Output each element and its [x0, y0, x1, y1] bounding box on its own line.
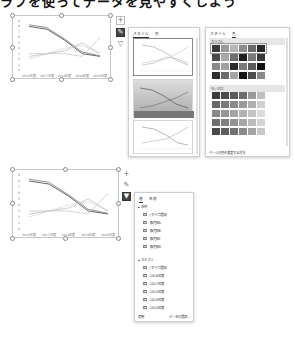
- filter-checkbox-item[interactable]: ✓2019年度: [143, 297, 164, 302]
- filter-checkbox-item[interactable]: ✓販売額C: [143, 236, 161, 241]
- color-swatch: [248, 128, 256, 135]
- checkbox[interactable]: ✓: [143, 229, 147, 233]
- resize-handle-tl[interactable]: [10, 167, 15, 172]
- select-data-link[interactable]: データの選択...: [169, 314, 190, 319]
- chart-styles-button[interactable]: ✎: [116, 28, 125, 37]
- filter-checkbox-item[interactable]: ✓(すべて選択): [143, 212, 167, 217]
- chart-top[interactable]: 9876543210 2016年度2017年度2018年度2019年度2020年…: [12, 15, 111, 79]
- resize-handle-tr[interactable]: [116, 167, 121, 172]
- swatch-row[interactable]: [212, 92, 265, 99]
- checkbox[interactable]: ✓: [143, 282, 147, 286]
- tab-names[interactable]: 名前: [149, 196, 157, 203]
- resize-handle-mr[interactable]: [108, 45, 113, 50]
- swatch-row[interactable]: [212, 72, 265, 79]
- chart-styles-button[interactable]: ✎: [122, 181, 131, 190]
- chart-filters-button[interactable]: ▽: [116, 40, 125, 49]
- series-line[interactable]: [29, 181, 108, 214]
- swatch-row[interactable]: [212, 45, 265, 52]
- x-axis-label: 2020年度: [93, 73, 107, 78]
- tab-values[interactable]: 値: [139, 196, 143, 203]
- style-panel-scrollbar[interactable]: [196, 38, 198, 154]
- color-swatch: [221, 110, 229, 117]
- y-axis-label: 1: [18, 63, 20, 67]
- filter-item-label: 2017年度: [150, 281, 165, 286]
- tab-color[interactable]: 色: [155, 31, 159, 38]
- resize-handle-mr[interactable]: [116, 201, 121, 206]
- filter-checkbox-item[interactable]: ✓(すべて選択): [143, 265, 167, 270]
- change-page-colors-link[interactable]: ページの色を変更する方法: [209, 150, 245, 155]
- series-group-label[interactable]: ▴ 系列: [138, 204, 147, 209]
- chart-style-panel: スタイル 色: [128, 27, 200, 157]
- resize-handle-tc[interactable]: [63, 167, 68, 172]
- y-axis-label: 8: [18, 179, 20, 183]
- y-axis-label: 8: [18, 24, 20, 28]
- swatch-row[interactable]: [212, 128, 265, 135]
- filter-checkbox-item[interactable]: ✓販売額B: [143, 228, 161, 233]
- swatch-row[interactable]: [212, 110, 265, 117]
- style-thumbnail-1[interactable]: [133, 38, 193, 76]
- series-line[interactable]: [29, 202, 108, 217]
- checkbox[interactable]: ✓: [143, 221, 147, 225]
- series-line[interactable]: [29, 46, 100, 60]
- y-axis-label: 1: [18, 221, 20, 225]
- swatch-row[interactable]: [212, 119, 265, 126]
- color-swatch: [248, 72, 256, 79]
- chart-bottom[interactable]: 9876543210 2016年度2017年度2018年度2019年度2020年…: [12, 169, 119, 238]
- checkbox[interactable]: ✓: [143, 237, 147, 241]
- tab-style[interactable]: スタイル: [210, 31, 226, 38]
- color-swatch: [248, 92, 256, 99]
- resize-handle-bc[interactable]: [63, 236, 68, 241]
- color-swatch: [212, 63, 220, 70]
- filter-item-label: (すべて選択): [150, 265, 168, 270]
- checkbox[interactable]: ✓: [143, 213, 147, 217]
- chart-filters-button[interactable]: ▼: [122, 192, 131, 201]
- color-swatch: [230, 45, 238, 52]
- resize-handle-bc[interactable]: [59, 77, 64, 82]
- y-axis-label: 2: [18, 57, 20, 61]
- swatch-row[interactable]: [212, 54, 265, 61]
- filter-checkbox-item[interactable]: ✓販売額D: [143, 244, 161, 249]
- swatch-row[interactable]: [212, 101, 265, 108]
- style-thumbnail-3-preview: [134, 121, 194, 155]
- resize-handle-br[interactable]: [116, 236, 121, 241]
- swatch-row[interactable]: [212, 63, 265, 70]
- tab-color[interactable]: 色: [232, 31, 236, 38]
- checkbox[interactable]: ✓: [143, 290, 147, 294]
- checkbox[interactable]: ✓: [143, 245, 147, 249]
- apply-button[interactable]: 適用: [138, 314, 144, 319]
- series-line[interactable]: [29, 26, 100, 56]
- chart-elements-button[interactable]: +: [116, 16, 125, 25]
- tab-style[interactable]: スタイル: [133, 31, 149, 38]
- y-axis-label: 9: [18, 19, 20, 23]
- style-thumbnail-3[interactable]: [133, 120, 193, 154]
- checkbox[interactable]: ✓: [143, 274, 147, 278]
- color-swatch: [230, 54, 238, 61]
- resize-handle-tc[interactable]: [59, 13, 64, 18]
- filter-checkbox-item[interactable]: ✓販売額A: [143, 220, 161, 225]
- style-thumbnail-2[interactable]: [133, 79, 193, 117]
- chart-elements-button[interactable]: +: [122, 170, 131, 179]
- color-panel-scrollbar[interactable]: [286, 38, 288, 146]
- category-group-label[interactable]: ▴ カテゴリ: [138, 257, 153, 262]
- filter-checkbox-item[interactable]: ✓2020年度: [143, 305, 164, 310]
- resize-handle-bl[interactable]: [10, 236, 15, 241]
- checkbox[interactable]: ✓: [143, 266, 147, 270]
- color-swatch: [230, 92, 238, 99]
- color-swatch: [257, 110, 265, 117]
- checkbox[interactable]: ✓: [143, 298, 147, 302]
- resize-handle-br[interactable]: [108, 77, 113, 82]
- resize-handle-ml[interactable]: [10, 201, 15, 206]
- resize-handle-ml[interactable]: [10, 45, 15, 50]
- color-swatch: [221, 63, 229, 70]
- checkbox[interactable]: ✓: [143, 306, 147, 310]
- resize-handle-tr[interactable]: [108, 13, 113, 18]
- y-axis-label: 6: [18, 35, 20, 39]
- y-axis-label: 3: [18, 52, 20, 56]
- color-swatch: [257, 128, 265, 135]
- filter-checkbox-item[interactable]: ✓2016年度: [143, 273, 164, 278]
- resize-handle-bl[interactable]: [10, 77, 15, 82]
- filter-checkbox-item[interactable]: ✓2017年度: [143, 281, 164, 286]
- resize-handle-tl[interactable]: [10, 13, 15, 18]
- y-axis-label: 0: [18, 68, 20, 72]
- filter-checkbox-item[interactable]: ✓2018年度: [143, 289, 164, 294]
